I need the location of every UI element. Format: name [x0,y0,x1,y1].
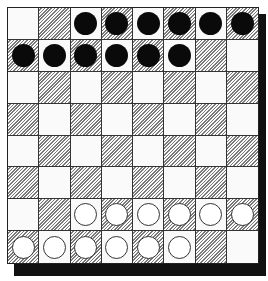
board-square-r0-c7[interactable] [227,8,258,40]
board-square-r2-c2[interactable] [71,72,102,104]
white-piece-icon[interactable] [43,236,66,259]
black-piece-icon[interactable] [199,12,222,35]
white-piece-icon[interactable] [168,203,191,226]
white-piece-icon[interactable] [137,203,160,226]
board-square-r7-c1[interactable] [39,231,70,263]
board-square-r3-c0[interactable] [8,104,39,136]
board-square-r3-c5[interactable] [164,104,195,136]
board-square-r3-c4[interactable] [133,104,164,136]
board-square-r6-c3[interactable] [102,199,133,231]
white-piece-icon[interactable] [137,236,160,259]
board-square-r6-c1[interactable] [39,199,70,231]
white-piece-icon[interactable] [74,203,97,226]
board-square-r5-c4[interactable] [133,167,164,199]
board-square-r4-c6[interactable] [196,136,227,168]
black-piece-icon[interactable] [231,12,254,35]
board-square-r1-c0[interactable] [8,40,39,72]
board-square-r5-c1[interactable] [39,167,70,199]
board-square-r3-c7[interactable] [227,104,258,136]
board-square-r7-c2[interactable] [71,231,102,263]
black-piece-icon[interactable] [74,12,97,35]
board-square-r0-c4[interactable] [133,8,164,40]
board-square-r0-c6[interactable] [196,8,227,40]
board-square-r4-c1[interactable] [39,136,70,168]
white-piece-icon[interactable] [74,236,97,259]
board-square-r7-c0[interactable] [8,231,39,263]
board-square-r4-c2[interactable] [71,136,102,168]
board-square-r1-c5[interactable] [164,40,195,72]
black-piece-icon[interactable] [105,44,128,67]
board-square-r0-c0[interactable] [8,8,39,40]
board-square-r1-c2[interactable] [71,40,102,72]
board-square-r4-c0[interactable] [8,136,39,168]
board-square-r3-c3[interactable] [102,104,133,136]
black-piece-icon[interactable] [168,44,191,67]
board-square-r6-c4[interactable] [133,199,164,231]
board-square-r7-c5[interactable] [164,231,195,263]
board-square-r1-c4[interactable] [133,40,164,72]
board-square-r0-c5[interactable] [164,8,195,40]
board-square-r4-c4[interactable] [133,136,164,168]
board-square-r3-c6[interactable] [196,104,227,136]
white-piece-icon[interactable] [231,203,254,226]
board-square-r5-c3[interactable] [102,167,133,199]
black-piece-icon[interactable] [168,12,191,35]
black-piece-icon[interactable] [74,44,97,67]
black-piece-icon[interactable] [12,44,35,67]
board-square-r2-c4[interactable] [133,72,164,104]
board-square-r6-c6[interactable] [196,199,227,231]
board-square-r5-c6[interactable] [196,167,227,199]
board-square-r0-c1[interactable] [39,8,70,40]
white-piece-icon[interactable] [105,236,128,259]
white-piece-icon[interactable] [168,236,191,259]
board-square-r6-c0[interactable] [8,199,39,231]
board-square-r7-c3[interactable] [102,231,133,263]
board-square-r6-c7[interactable] [227,199,258,231]
board-square-r2-c1[interactable] [39,72,70,104]
board-square-r2-c7[interactable] [227,72,258,104]
board-square-r7-c7[interactable] [227,231,258,263]
board-square-r5-c0[interactable] [8,167,39,199]
board-square-r0-c2[interactable] [71,8,102,40]
board-square-r3-c2[interactable] [71,104,102,136]
board-square-r7-c4[interactable] [133,231,164,263]
board-square-r4-c5[interactable] [164,136,195,168]
board-square-r5-c5[interactable] [164,167,195,199]
black-piece-icon[interactable] [137,44,160,67]
board-square-r5-c2[interactable] [71,167,102,199]
game-board [7,7,259,264]
board-square-r4-c3[interactable] [102,136,133,168]
black-piece-icon[interactable] [43,44,66,67]
white-piece-icon[interactable] [199,203,222,226]
board-square-r1-c7[interactable] [227,40,258,72]
board-square-r7-c6[interactable] [196,231,227,263]
board-square-r6-c5[interactable] [164,199,195,231]
black-piece-icon[interactable] [137,12,160,35]
white-piece-icon[interactable] [105,203,128,226]
board-square-r5-c7[interactable] [227,167,258,199]
board-square-r2-c3[interactable] [102,72,133,104]
board-square-r1-c6[interactable] [196,40,227,72]
board-square-r3-c1[interactable] [39,104,70,136]
white-piece-icon[interactable] [12,236,35,259]
board-square-r1-c1[interactable] [39,40,70,72]
board-square-r2-c0[interactable] [8,72,39,104]
board-square-r1-c3[interactable] [102,40,133,72]
board-square-r2-c5[interactable] [164,72,195,104]
board-square-r0-c3[interactable] [102,8,133,40]
board-square-r2-c6[interactable] [196,72,227,104]
board-square-r6-c2[interactable] [71,199,102,231]
black-piece-icon[interactable] [105,12,128,35]
board-square-r4-c7[interactable] [227,136,258,168]
